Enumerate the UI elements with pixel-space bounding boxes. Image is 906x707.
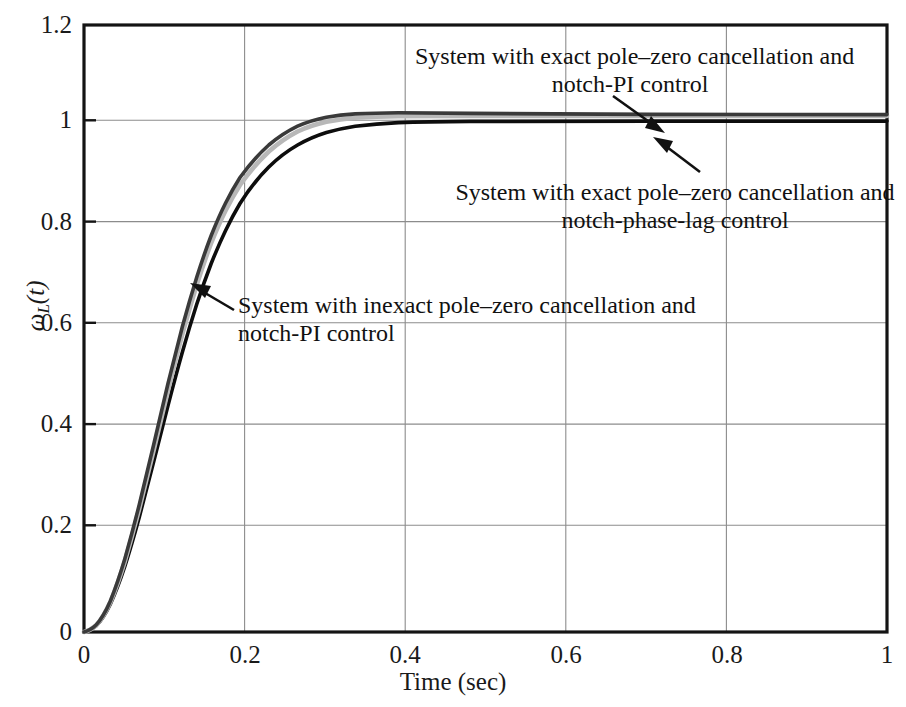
xtick-label-1: 1 [881,641,894,669]
y-axis-title-argument: (t) [22,281,49,305]
ytick-label-0.8: 0.8 [10,208,72,236]
annotation-exact-notch-phase-lag-line2: notch-phase-lag control [455,206,895,234]
annotation-inexact-notch-pi-line1: System with inexact pole–zero cancellati… [238,291,678,319]
annotation-inexact-notch-pi: System with inexact pole–zero cancellati… [238,291,678,348]
xtick-label-0.2: 0.2 [229,641,260,669]
xtick-label-0: 0 [78,641,91,669]
xtick-label-0.8: 0.8 [711,641,742,669]
ytick-label-0.2: 0.2 [10,511,72,539]
y-axis-title: ωL(t) [22,256,54,356]
y-axis-title-subscript: L [34,304,53,313]
annotation-exact-notch-pi-line1: System with exact pole–zero cancellation… [415,42,845,70]
ytick-label-1: 1 [10,106,72,134]
ytick-label-1.2: 1.2 [10,11,72,39]
annotation-exact-notch-pi-line2: notch-PI control [415,70,845,98]
xtick-label-0.6: 0.6 [550,641,581,669]
annotation-exact-notch-pi: System with exact pole–zero cancellation… [415,42,845,99]
ytick-label-0.4: 0.4 [10,410,72,438]
annotation-exact-notch-phase-lag: System with exact pole–zero cancellation… [455,178,895,235]
y-axis-title-omega: ω [22,314,49,332]
plot-canvas [0,0,906,707]
ytick-label-0: 0 [10,618,72,646]
annotation-exact-notch-phase-lag-line1: System with exact pole–zero cancellation… [455,178,895,206]
annotation-inexact-notch-pi-line2: notch-PI control [238,319,678,347]
x-axis-title: Time (sec) [0,668,906,696]
xtick-label-0.4: 0.4 [389,641,420,669]
chart-figure: 1.2 1 0.8 0.6 0.4 0.2 0 0 0.2 0.4 0.6 0.… [0,0,906,707]
